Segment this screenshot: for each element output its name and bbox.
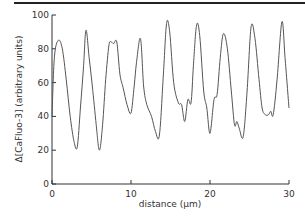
y-tick-label: 0 xyxy=(43,179,49,189)
y-tick-label: 20 xyxy=(38,145,50,155)
ticks: 0204060801000102030 xyxy=(32,10,295,199)
x-tick-label: 20 xyxy=(204,189,216,199)
y-axis-label: Δ[CaFluo-3] (arbitrary units) xyxy=(14,35,24,162)
x-tick-label: 30 xyxy=(283,189,295,199)
data-line xyxy=(52,20,289,150)
y-tick-label: 60 xyxy=(38,78,50,88)
x-tick-label: 0 xyxy=(49,189,55,199)
y-tick-label: 40 xyxy=(38,111,50,121)
x-tick-label: 10 xyxy=(125,189,137,199)
y-tick-label: 100 xyxy=(32,10,49,20)
x-axis-label: distance (µm) xyxy=(139,199,202,209)
y-tick-label: 80 xyxy=(38,44,50,54)
line-chart: 0204060801000102030 distance (µm) Δ[CaFl… xyxy=(0,0,305,220)
